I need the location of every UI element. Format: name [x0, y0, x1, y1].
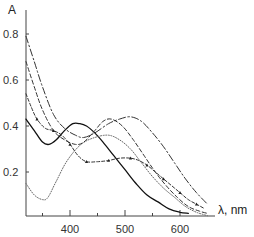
- triangle-marker-icon: [178, 191, 181, 194]
- data-series: [26, 36, 208, 215]
- series-dashed-line: [26, 62, 208, 214]
- x-axis-ticks: 400500600: [43, 210, 190, 235]
- triangle-marker-icon: [68, 143, 71, 146]
- y-tick-label: 0.6: [3, 74, 18, 86]
- x-tick-label: 400: [61, 223, 79, 235]
- triangle-marker-icon: [195, 203, 198, 206]
- y-tick-label: 0.8: [3, 28, 18, 40]
- series-dashed-triangles-line: [26, 94, 205, 209]
- x-tick-label: 600: [171, 223, 189, 235]
- x-axis: 400500600 λ, nm: [26, 203, 247, 235]
- y-axis: 0.20.40.60.8 A: [3, 3, 29, 216]
- series-dash-dot-line: [26, 36, 208, 204]
- absorption-spectrum-chart: 0.20.40.60.8 A 400500600 λ, nm: [0, 0, 254, 237]
- y-tick-label: 0.4: [3, 120, 18, 132]
- series-dotted-line: [26, 135, 208, 216]
- y-tick-label: 0.2: [3, 166, 18, 178]
- series-solid-line: [26, 119, 188, 213]
- y-axis-ticks: 0.20.40.60.8: [3, 28, 29, 178]
- x-axis-title: λ, nm: [218, 203, 247, 217]
- y-axis-title: A: [8, 3, 16, 17]
- x-tick-label: 500: [116, 223, 134, 235]
